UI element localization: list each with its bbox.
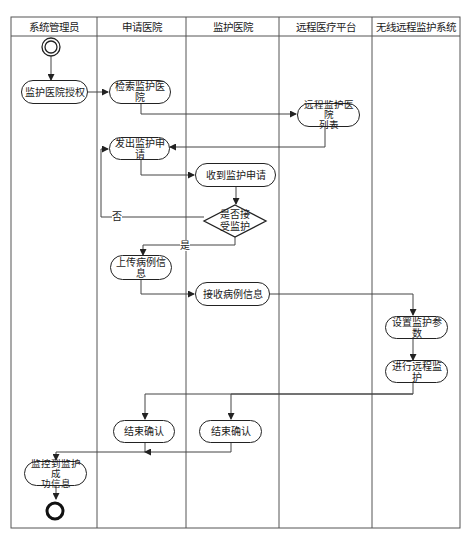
activity-success-info: 监控到监护成 功信息 [24, 461, 87, 486]
activity-upload-case: 上传病例信息 [110, 255, 172, 280]
decision-line2: 受监护 [210, 221, 260, 233]
activity-diagram: 系统管理员 申请医院 监护医院 远程医疗平台 无线远程监护系统 监护医院授权 检… [0, 0, 471, 540]
final-node-icon [47, 503, 63, 519]
hospital-list-line2: 列表 [319, 120, 339, 130]
activity-end-confirm-applicant: 结束确认 [113, 420, 175, 443]
activity-receive-case: 接收病例信息 [195, 282, 270, 306]
lane-header-admin: 系统管理员 [11, 17, 97, 36]
hospital-list-line1: 远程监护医院 [300, 100, 357, 120]
lane-header-monitoring-hospital: 监护医院 [186, 17, 279, 36]
activity-remote-monitoring: 进行远程监护 [385, 360, 448, 383]
activity-end-confirm-monitor: 结束确认 [199, 420, 262, 443]
lane-header-telemedicine-platform: 远程医疗平台 [279, 17, 372, 36]
success-info-line1: 监控到监护成 [27, 459, 84, 479]
success-info-line2: 功信息 [41, 479, 71, 489]
decision-line1: 是否接 [210, 209, 260, 221]
activity-authorize-hospital: 监护医院授权 [21, 80, 88, 104]
guard-yes: 是 [180, 240, 190, 251]
guard-no: 否 [112, 211, 122, 222]
activity-send-request: 发出监护申请 [109, 137, 170, 160]
activity-receive-request: 收到监护申请 [195, 163, 276, 187]
activity-hospital-list: 远程监护医院 列表 [297, 103, 360, 127]
lane-header-applicant-hospital: 申请医院 [97, 17, 186, 36]
decision-label: 是否接 受监护 [210, 209, 260, 233]
lane-header-wireless-system: 无线远程监护系统 [372, 17, 460, 36]
activity-search-hospital: 检索监护医院 [109, 80, 171, 104]
activity-set-parameters: 设置监护参数 [385, 316, 448, 339]
initial-node-icon [42, 38, 60, 56]
